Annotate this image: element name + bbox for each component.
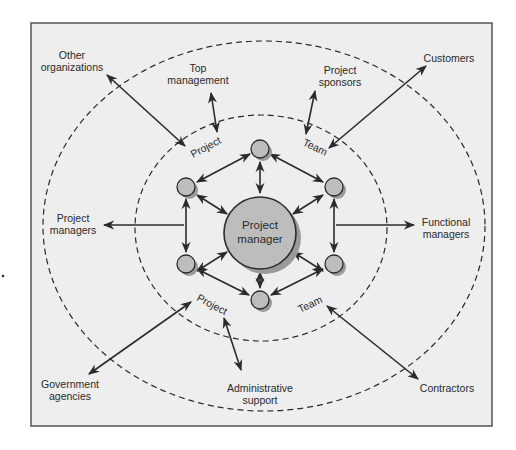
svg-text:Project: Project xyxy=(57,212,90,224)
stakeholder-government-agencies[interactable]: Government agencies xyxy=(41,378,99,402)
svg-text:Functional: Functional xyxy=(422,216,470,228)
center-label-line2: manager xyxy=(237,233,283,245)
svg-text:managers: managers xyxy=(423,228,470,240)
stakeholder-contractors[interactable]: Contractors xyxy=(420,382,474,394)
stray-dot xyxy=(2,275,5,278)
svg-text:organizations: organizations xyxy=(41,61,103,73)
svg-text:Top: Top xyxy=(190,62,207,74)
svg-text:Customers: Customers xyxy=(424,52,475,64)
stakeholder-functional-managers[interactable]: Functional managers xyxy=(422,216,470,240)
team-node-lower-right[interactable] xyxy=(325,255,343,273)
svg-text:sponsors: sponsors xyxy=(319,76,362,88)
stakeholder-customers[interactable]: Customers xyxy=(424,52,475,64)
project-environment-diagram: Project manager Project Team Project Tea… xyxy=(0,0,516,450)
svg-text:Project: Project xyxy=(324,64,357,76)
team-node-top[interactable] xyxy=(251,140,269,158)
center-label-line1: Project xyxy=(242,219,279,231)
svg-text:management: management xyxy=(167,74,228,86)
stakeholder-project-sponsors[interactable]: Project sponsors xyxy=(319,64,362,88)
svg-text:Other: Other xyxy=(59,49,86,61)
svg-text:Contractors: Contractors xyxy=(420,382,474,394)
team-node-lower-left[interactable] xyxy=(177,255,195,273)
svg-text:support: support xyxy=(242,394,277,406)
svg-text:Government: Government xyxy=(41,378,99,390)
team-node-upper-right[interactable] xyxy=(325,178,343,196)
team-node-bottom[interactable] xyxy=(251,291,269,309)
team-node-upper-left[interactable] xyxy=(177,178,195,196)
svg-text:managers: managers xyxy=(50,224,97,236)
svg-text:agencies: agencies xyxy=(49,390,91,402)
svg-text:Administrative: Administrative xyxy=(227,382,293,394)
